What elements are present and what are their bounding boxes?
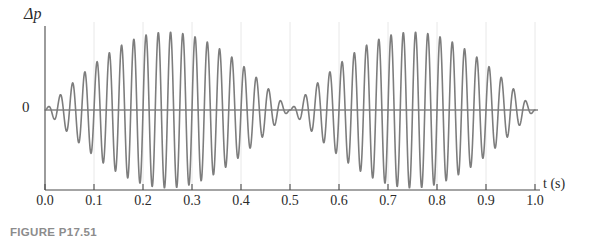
figure-caption: FIGURE P17.51 [10,226,97,238]
axis-ticks [45,184,535,190]
x-axis-tick-label: 0.3 [172,193,212,209]
x-axis-tick-label: 1.0 [515,193,555,209]
x-axis-tick-label: 0.6 [319,193,359,209]
x-axis-tick-label: 0.7 [368,193,408,209]
x-axis-tick-label: 0.8 [417,193,457,209]
x-axis-tick-label: 0.9 [466,193,506,209]
x-axis-tick-label: 0.0 [25,193,65,209]
x-axis-label: t (s) [543,176,565,192]
x-axis-tick-label: 0.1 [74,193,114,209]
x-axis-tick-label: 0.5 [270,193,310,209]
y-axis-label: Δp [24,5,41,23]
beat-waveform-plot [0,0,606,250]
figure-container: Δp 0 t (s) 0.00.10.20.30.40.50.60.70.80.… [0,0,606,250]
y-axis-tick-label-zero: 0 [22,99,30,116]
x-axis-tick-label: 0.2 [123,193,163,209]
x-axis-tick-label: 0.4 [221,193,261,209]
